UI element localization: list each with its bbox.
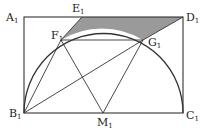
geometry-diagram: A1 E1 D1 F1 G1 B1 M1 C1 <box>0 0 201 128</box>
label-d1: D1 <box>186 11 199 25</box>
label-a1: A1 <box>5 11 18 25</box>
segment-b1-g1 <box>24 40 143 113</box>
segment-f1-m1 <box>61 40 103 113</box>
label-c1: C1 <box>186 109 199 123</box>
label-g1: G1 <box>148 36 161 50</box>
label-m1: M1 <box>97 116 113 128</box>
segment-g1-m1 <box>103 40 143 113</box>
label-f1: F1 <box>51 29 63 43</box>
label-e1: E1 <box>72 2 85 16</box>
label-b1: B1 <box>9 107 22 121</box>
